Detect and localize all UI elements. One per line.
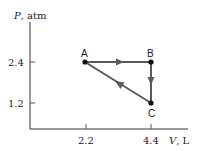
point-a <box>82 59 87 64</box>
point-b-label: B <box>147 48 154 59</box>
arrow-right-icon <box>116 59 124 66</box>
arrow-down-icon <box>148 77 155 85</box>
y-tick-label: 1.2 <box>8 98 24 109</box>
point-b <box>148 59 153 64</box>
point-c-label: C <box>148 108 155 119</box>
pv-diagram: P, atm V, L 2.4 1.2 2.2 4.4 A B C <box>0 0 200 151</box>
point-c <box>148 100 153 105</box>
y-tick-label: 2.4 <box>8 57 24 68</box>
x-axis-label: V, L <box>169 135 190 146</box>
point-a-label: A <box>81 48 88 59</box>
x-tick-label: 4.4 <box>143 135 159 146</box>
x-tick-label: 2.2 <box>78 135 94 146</box>
y-axis-label: P, atm <box>13 10 47 21</box>
